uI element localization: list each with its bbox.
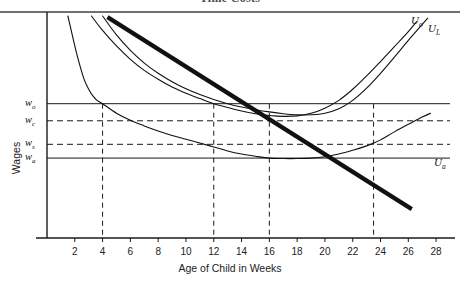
curve-budget-line bbox=[107, 17, 411, 209]
x-tick-label-28: 28 bbox=[426, 246, 446, 257]
x-tick-label-16: 16 bbox=[259, 246, 279, 257]
x-tick-label-14: 14 bbox=[232, 246, 252, 257]
x-tick-label-2: 2 bbox=[65, 246, 85, 257]
x-tick-label-12: 12 bbox=[204, 246, 224, 257]
x-axis-title: Age of Child in Weeks bbox=[0, 262, 460, 274]
y-value-label-text: w bbox=[25, 114, 32, 125]
curve-label-sub: L bbox=[436, 28, 440, 37]
y-value-label-text: w bbox=[25, 137, 32, 148]
curve-label-U_L: UL bbox=[428, 22, 440, 37]
y-value-label-sub: c bbox=[32, 120, 35, 128]
y-value-label-text: w bbox=[25, 151, 32, 162]
x-tick-label-22: 22 bbox=[343, 246, 363, 257]
curve-U_o bbox=[91, 16, 416, 116]
x-tick-label-10: 10 bbox=[176, 246, 196, 257]
curve-label-U_o: Uo bbox=[411, 14, 423, 29]
x-tick-label-6: 6 bbox=[120, 246, 140, 257]
curve-label-text: U bbox=[434, 156, 442, 168]
curve-U_L bbox=[103, 16, 428, 115]
x-tick-label-20: 20 bbox=[315, 246, 335, 257]
y-value-label-w_o: wo bbox=[25, 97, 36, 111]
chart-canvas: Time Costs Wages Age of Child in Weeks w… bbox=[0, 0, 460, 287]
y-value-label-sub: a bbox=[32, 157, 36, 165]
x-tick-label-4: 4 bbox=[93, 246, 113, 257]
y-value-label-w_a: wa bbox=[25, 151, 36, 165]
x-tick-label-26: 26 bbox=[398, 246, 418, 257]
x-tick-label-24: 24 bbox=[371, 246, 391, 257]
y-value-label-w_c: wc bbox=[25, 114, 35, 128]
y-value-label-w_s: ws bbox=[25, 137, 35, 151]
curve-label-sub: a bbox=[442, 162, 446, 171]
x-tick-label-18: 18 bbox=[287, 246, 307, 257]
x-tick-label-8: 8 bbox=[148, 246, 168, 257]
curve-label-text: U bbox=[428, 22, 436, 34]
curve-label-text: U bbox=[411, 14, 419, 26]
wages-vs-age-chart bbox=[0, 0, 460, 287]
curve-label-sub: o bbox=[419, 20, 423, 29]
y-value-label-sub: o bbox=[32, 103, 36, 111]
curve-U_a bbox=[68, 16, 431, 159]
y-axis-title: Wages bbox=[10, 128, 22, 188]
curve-label-U_a: Ua bbox=[434, 156, 446, 171]
y-value-label-text: w bbox=[25, 97, 32, 108]
